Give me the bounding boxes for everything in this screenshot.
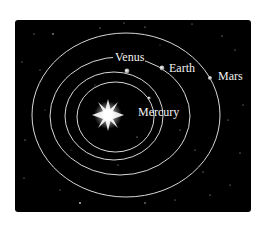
planet-mercury [147,96,150,99]
label-mars: Mars [218,69,243,83]
label-venus: Venus [115,50,145,64]
label-mercury: Mercury [138,105,179,119]
sun-icon [92,99,124,131]
solar-system-diagram: Venus Earth Mars Mercury [0,0,262,229]
label-earth: Earth [169,61,195,75]
planet-venus [125,69,130,74]
planet-earth [160,66,165,71]
planet-mars [208,76,212,80]
